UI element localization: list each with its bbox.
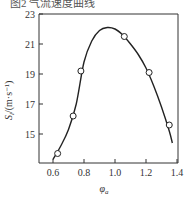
data-point-marker <box>78 68 84 74</box>
fit-curve <box>53 27 172 159</box>
y-tick-label: 17 <box>25 99 35 110</box>
chart-canvas: 1517192123 0.60.81.01.21.4 φa Sl/(m·s⁻¹) <box>0 0 190 200</box>
x-tick-label: 0.8 <box>78 167 91 178</box>
data-point-marker <box>55 151 61 157</box>
data-point-marker <box>70 113 76 119</box>
data-point-marker <box>146 70 152 76</box>
x-axis-label: φa <box>99 183 109 196</box>
data-point-marker <box>166 122 172 128</box>
x-tick-label: 0.6 <box>47 167 60 178</box>
y-tick-label: 23 <box>25 9 35 20</box>
y-tick-label: 21 <box>25 39 35 50</box>
plot-frame <box>39 14 178 163</box>
data-point-marker <box>121 34 127 40</box>
data-points <box>55 34 173 157</box>
y-tick-label: 15 <box>25 129 35 140</box>
x-tick-label: 1.0 <box>109 167 122 178</box>
x-tick-label: 1.2 <box>140 167 153 178</box>
x-axis-ticks: 0.60.81.01.21.4 <box>47 159 184 178</box>
y-axis-label: Sl/(m·s⁻¹) <box>3 81 16 120</box>
x-tick-label: 1.4 <box>171 167 184 178</box>
y-tick-label: 19 <box>25 69 35 80</box>
y-axis-ticks: 1517192123 <box>25 9 43 140</box>
